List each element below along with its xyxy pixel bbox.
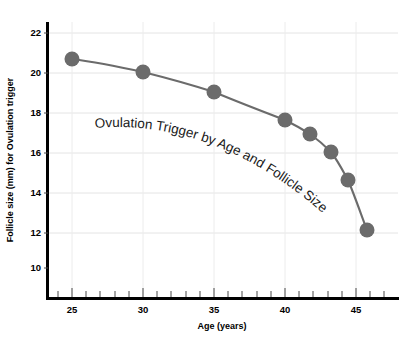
line-chart: Ovulation Trigger by Age and Follicle Si… bbox=[0, 0, 410, 339]
x-tick-label: 45 bbox=[351, 304, 362, 315]
x-tick-label: 35 bbox=[209, 304, 220, 315]
data-point bbox=[360, 223, 375, 238]
x-tick-label: 40 bbox=[280, 304, 291, 315]
data-point bbox=[303, 127, 318, 142]
y-tick-label: 12 bbox=[30, 227, 41, 238]
y-tick-label: 22 bbox=[30, 27, 41, 38]
y-tick-label: 20 bbox=[30, 67, 41, 78]
data-point bbox=[136, 65, 151, 80]
data-point bbox=[207, 85, 222, 100]
y-axis-title: Follicle size (mm) for Ovulation trigger bbox=[5, 77, 15, 242]
data-point bbox=[65, 52, 80, 67]
x-tick-label: 25 bbox=[67, 304, 78, 315]
chart-container: Ovulation Trigger by Age and Follicle Si… bbox=[0, 0, 410, 339]
chart-background bbox=[0, 0, 410, 339]
data-point bbox=[278, 113, 293, 128]
y-tick-label: 10 bbox=[30, 262, 41, 273]
x-tick-label: 30 bbox=[138, 304, 149, 315]
y-tick-label: 18 bbox=[30, 107, 41, 118]
y-tick-label: 14 bbox=[30, 187, 41, 198]
x-axis-title: Age (years) bbox=[197, 321, 246, 331]
y-tick-label: 16 bbox=[30, 147, 41, 158]
data-point bbox=[341, 173, 356, 188]
data-point bbox=[324, 145, 339, 160]
